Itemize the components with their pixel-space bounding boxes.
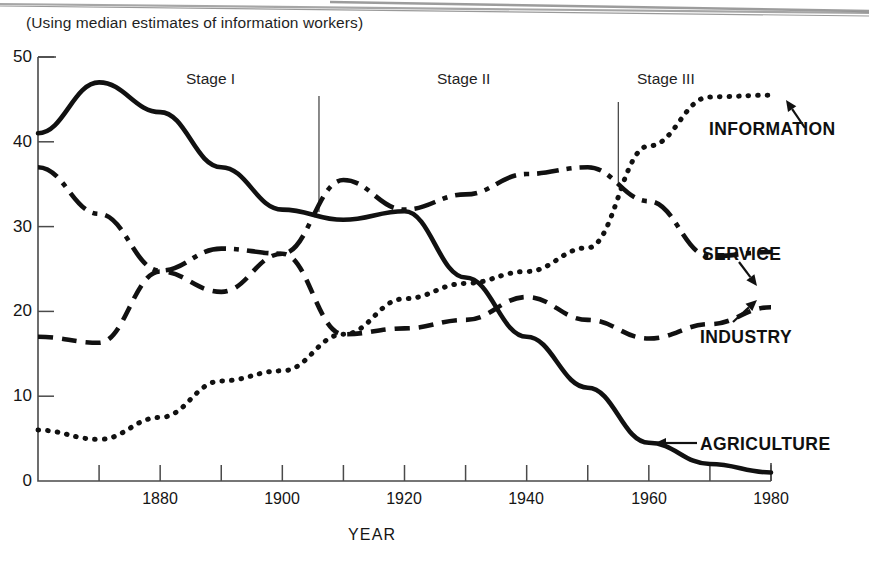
series-line-service (38, 167, 771, 271)
callout-arrow-information (786, 100, 805, 128)
series-lines-group (38, 82, 771, 472)
callout-arrow-service (739, 262, 757, 286)
callout-arrow-industry (733, 300, 757, 322)
callout-arrows-group (655, 100, 805, 448)
series-line-information (38, 95, 771, 439)
chart-figure: (Using median estimates of information w… (0, 0, 869, 567)
plot-area (0, 0, 869, 567)
series-line-industry (38, 254, 771, 343)
